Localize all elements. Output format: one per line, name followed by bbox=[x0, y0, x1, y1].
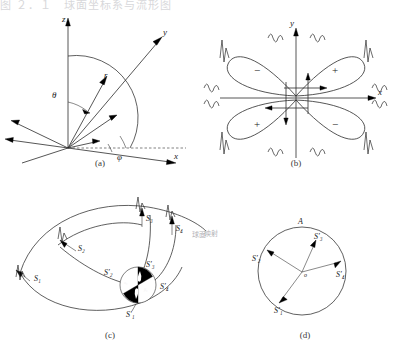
panel-c-mapped-label-s1p: S′₁ bbox=[126, 310, 135, 319]
figure-root: 图 ２．１ 球面坐标系与流形图 z y x bbox=[0, 0, 394, 352]
panel-d-vector-label-s2p: S′₂ bbox=[252, 254, 261, 263]
panel-b-sign-lower-right: − bbox=[332, 118, 338, 130]
wavelet-spike-icon bbox=[204, 84, 219, 92]
panel-c-vector-mapping: S₁ S₂ S₃ S₄ α₀ β₀ S′₂ S′₃ S′₄ bbox=[0, 185, 210, 335]
panel-c-mapped-label-s2p: S′₂ bbox=[104, 268, 113, 277]
wavelet-spike-icon bbox=[364, 40, 373, 62]
wavelet-spike-icon bbox=[310, 148, 325, 156]
wavelet-spike-icon bbox=[364, 132, 373, 154]
panel-a-axis-label-z: z bbox=[61, 14, 66, 24]
panel-b-orbital-lobes: y x − + + − bbox=[198, 10, 394, 165]
panel-c-center-angle-beta: β₀ bbox=[143, 287, 148, 292]
panel-b-axis-label-y: y bbox=[289, 18, 294, 28]
panel-c-caption: (c) bbox=[0, 330, 220, 340]
panel-c-vector-label-s4: S₄ bbox=[176, 224, 183, 233]
wavelet-spike-icon bbox=[268, 148, 283, 156]
wavelet-spike-icon bbox=[136, 197, 145, 212]
wavelet-spike-icon bbox=[372, 100, 387, 108]
panel-a-axis-label-y: y bbox=[162, 27, 167, 37]
panel-c-center-angle-alpha: α₀ bbox=[124, 280, 128, 285]
panel-c-mapped-label-s3p: S′₃ bbox=[146, 260, 155, 269]
panel-a-theta-label: θ bbox=[52, 90, 57, 100]
panel-a-caption: (a) bbox=[0, 158, 200, 168]
panel-a-radius-label: r bbox=[104, 70, 108, 80]
panel-d-vector-label-s1p: S′₁ bbox=[274, 306, 283, 315]
wavelet-spike-icon bbox=[204, 100, 219, 108]
panel-d-side-note: 映射 bbox=[204, 228, 218, 238]
panel-b-sign-upper-right: + bbox=[332, 64, 338, 76]
panel-d-mapped-circle: A o S′₃ S′₂ S′₄ S′₁ bbox=[230, 215, 380, 335]
wavelet-spike-icon bbox=[310, 34, 325, 42]
panel-c-vector-label-s3: S₃ bbox=[146, 214, 153, 223]
panel-b-sign-lower-left: + bbox=[254, 118, 260, 130]
panel-b-sign-upper-left: − bbox=[254, 64, 260, 76]
panel-c-vector-label-s2: S₂ bbox=[78, 244, 85, 253]
wavelet-spike-icon bbox=[220, 40, 229, 62]
panel-c-mapped-label-s4p: S′₄ bbox=[160, 282, 169, 291]
panel-c-vector-label-s1: S₁ bbox=[34, 274, 41, 283]
panel-a-spherical-coordinates: z y x r θ bbox=[0, 10, 200, 165]
panel-d-origin-label: o bbox=[304, 272, 307, 278]
panel-d-vector-label-s4p: S′₄ bbox=[336, 270, 345, 279]
wavelet-spike-icon bbox=[220, 132, 229, 154]
panel-d-circle-top-label: A bbox=[297, 217, 303, 226]
wavelet-spike-icon bbox=[268, 34, 283, 42]
panel-b-caption: (b) bbox=[198, 158, 394, 168]
panel-d-vector-label-s3p: S′₃ bbox=[314, 232, 323, 241]
panel-d-caption: (d) bbox=[230, 330, 380, 340]
